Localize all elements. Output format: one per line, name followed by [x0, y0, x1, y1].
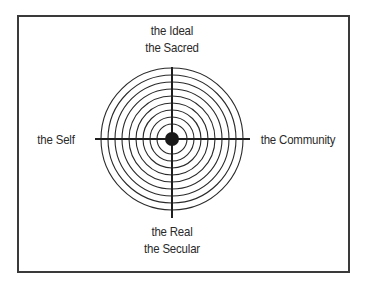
label-real: the Real [128, 223, 216, 240]
label-top: the Ideal the Sacred [128, 22, 216, 56]
label-bottom: the Real the Secular [128, 223, 216, 257]
center-dot [165, 132, 179, 146]
label-community: the Community [260, 131, 336, 148]
label-self: the Self [31, 131, 80, 148]
label-ideal: the Ideal [128, 22, 216, 39]
label-secular: the Secular [128, 240, 216, 257]
label-sacred: the Sacred [128, 39, 216, 56]
